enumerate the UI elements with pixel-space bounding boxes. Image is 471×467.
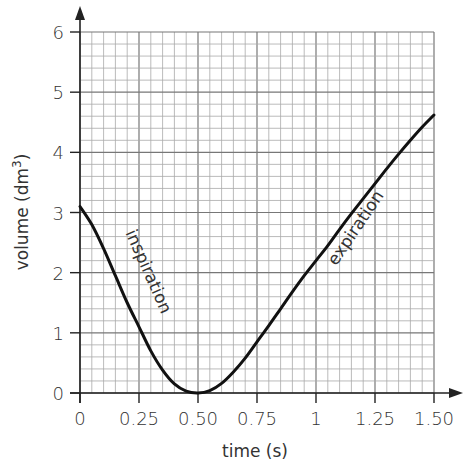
y-tick-label: 3 (53, 203, 64, 224)
x-tick-label: 0.50 (178, 408, 218, 429)
x-axis-title: time (s) (222, 441, 288, 461)
x-tick-label: 1.50 (414, 408, 454, 429)
y-tick-label: 2 (53, 263, 64, 284)
tick-labels: 00.250.500.7511.251.500123456 (53, 22, 454, 429)
x-tick-label: 0 (74, 408, 85, 429)
x-tick-label: 0.25 (119, 408, 159, 429)
x-tick-label: 1 (310, 408, 321, 429)
inspiration-label: inspiration (122, 226, 177, 316)
y-tick-label: 1 (53, 323, 64, 344)
y-tick-label: 0 (53, 383, 64, 404)
y-axis-title: volume (dm3) (10, 154, 32, 271)
expiration-label: expiration (323, 186, 388, 268)
volume-time-chart: 00.250.500.7511.251.500123456 inspiratio… (0, 0, 471, 467)
y-tick-label: 6 (53, 22, 64, 43)
y-tick-label: 5 (53, 82, 64, 103)
axes (70, 6, 463, 403)
y-tick-label: 4 (53, 142, 64, 163)
x-tick-label: 0.75 (237, 408, 277, 429)
grid (80, 32, 434, 393)
x-tick-label: 1.25 (355, 408, 395, 429)
